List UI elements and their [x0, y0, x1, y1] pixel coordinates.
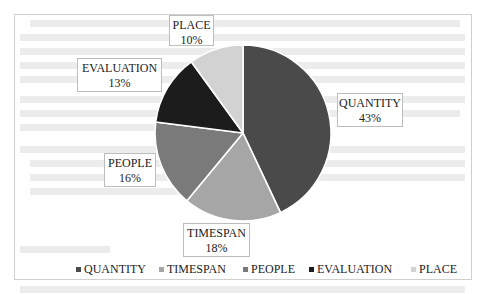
label-name: TIMESPAN — [184, 226, 249, 241]
data-label-place: PLACE 10% — [169, 15, 214, 46]
legend-swatch-icon — [159, 267, 164, 272]
legend-item-timespan: TIMESPAN — [159, 262, 226, 277]
legend-item-evaluation: EVALUATION — [309, 262, 392, 277]
label-value: 18% — [184, 241, 249, 256]
legend-swatch-icon — [411, 267, 416, 272]
label-name: PEOPLE — [105, 156, 155, 171]
legend-label: EVALUATION — [317, 262, 392, 276]
legend-item-quantity: QUANTITY — [76, 262, 146, 277]
label-name: QUANTITY — [338, 96, 402, 111]
data-label-people: PEOPLE 16% — [104, 153, 156, 187]
label-value: 10% — [170, 33, 213, 48]
chart-legend: QUANTITY TIMESPAN PEOPLE EVALUATION PLAC… — [0, 262, 486, 278]
data-label-timespan: TIMESPAN 18% — [183, 223, 250, 257]
data-label-evaluation: EVALUATION 13% — [77, 58, 162, 92]
label-value: 43% — [338, 111, 402, 126]
label-value: 16% — [105, 171, 155, 186]
label-name: EVALUATION — [78, 61, 161, 76]
legend-swatch-icon — [76, 267, 81, 272]
legend-label: TIMESPAN — [167, 262, 226, 276]
legend-label: PEOPLE — [251, 262, 295, 276]
legend-label: QUANTITY — [84, 262, 146, 276]
data-label-quantity: QUANTITY 43% — [337, 93, 403, 127]
legend-item-people: PEOPLE — [243, 262, 295, 277]
label-value: 13% — [78, 76, 161, 91]
legend-swatch-icon — [309, 267, 314, 272]
legend-label: PLACE — [419, 262, 457, 276]
legend-swatch-icon — [243, 267, 248, 272]
legend-item-place: PLACE — [411, 262, 457, 277]
label-name: PLACE — [170, 18, 213, 33]
